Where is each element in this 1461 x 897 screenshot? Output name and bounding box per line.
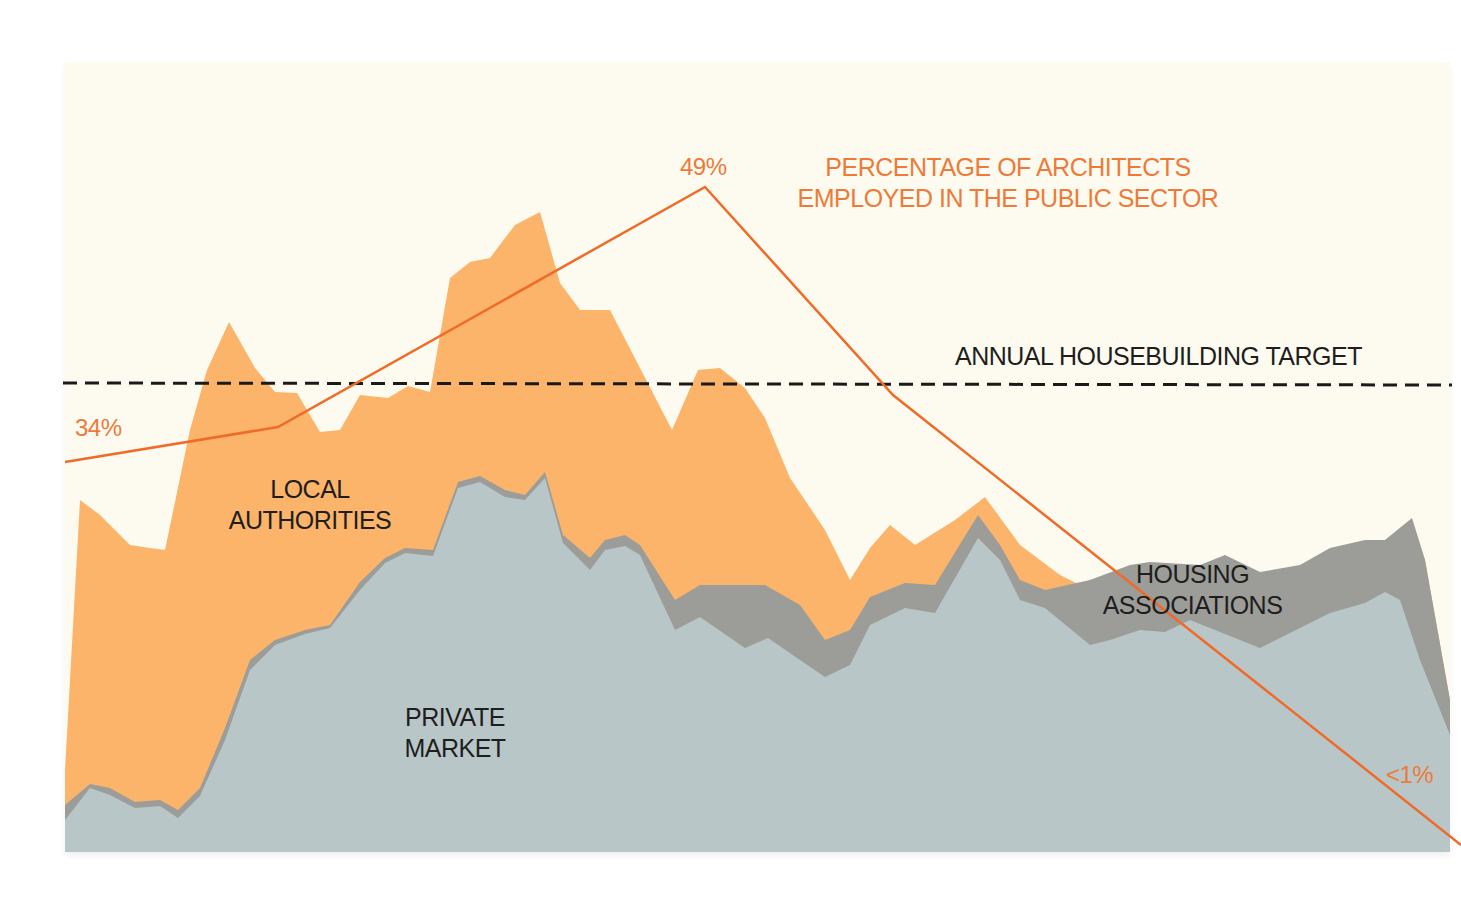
local-authorities-label: LOCAL AUTHORITIES: [220, 474, 400, 537]
public-sector-line-title: PERCENTAGE OF ARCHITECTS EMPLOYED IN THE…: [790, 152, 1226, 215]
private-market-label: PRIVATE MARKET: [385, 702, 525, 765]
end-percentage-label: <1%: [1386, 760, 1433, 790]
local-authorities-row-2: AUTHORITIES: [220, 505, 400, 536]
line-title-row-2: EMPLOYED IN THE PUBLIC SECTOR: [790, 183, 1226, 214]
housing-associations-row-1: HOUSING: [1090, 559, 1295, 590]
peak-percentage-label: 49%: [680, 152, 727, 182]
line-title-row-1: PERCENTAGE OF ARCHITECTS: [790, 152, 1226, 183]
start-percentage-label: 34%: [75, 413, 122, 443]
local-authorities-row-1: LOCAL: [220, 474, 400, 505]
annual-target-dashed-line: [63, 383, 1452, 385]
housing-associations-row-2: ASSOCIATIONS: [1090, 590, 1295, 621]
target-line-label: ANNUAL HOUSEBUILDING TARGET: [955, 341, 1362, 372]
private-market-row-1: PRIVATE: [385, 702, 525, 733]
housing-associations-label: HOUSING ASSOCIATIONS: [1090, 559, 1295, 622]
stacked-area-chart: [0, 0, 1461, 897]
private-market-row-2: MARKET: [385, 733, 525, 764]
